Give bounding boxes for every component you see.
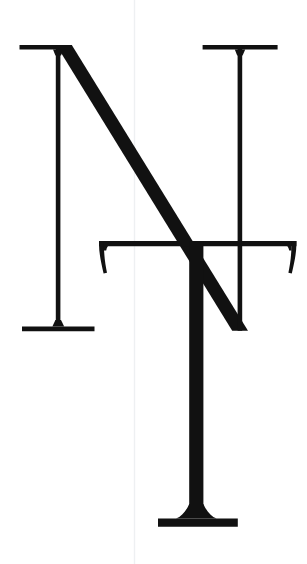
letter-n-bottom-left-serif: [22, 327, 95, 332]
artboard: A black serif capital N with a larger se…: [0, 0, 307, 564]
monogram-canvas: [0, 0, 307, 564]
canvas-background: [0, 0, 307, 564]
letter-n-right-stem: [238, 46, 243, 331]
letter-t-stem: [189, 241, 203, 506]
letter-n-left-stem: [56, 46, 61, 322]
letter-t-foot-serif: [158, 519, 238, 527]
